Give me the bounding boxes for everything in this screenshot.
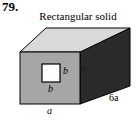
label-length: 6a xyxy=(109,93,118,103)
label-hole-width: b xyxy=(48,84,53,94)
figure-page: 79. Rectangular solid b b a 6a a xyxy=(0,0,136,121)
label-hole-height: b xyxy=(63,66,68,76)
label-front-width: a xyxy=(47,106,52,116)
label-side-height: a xyxy=(81,63,86,73)
square-hole xyxy=(42,64,60,82)
